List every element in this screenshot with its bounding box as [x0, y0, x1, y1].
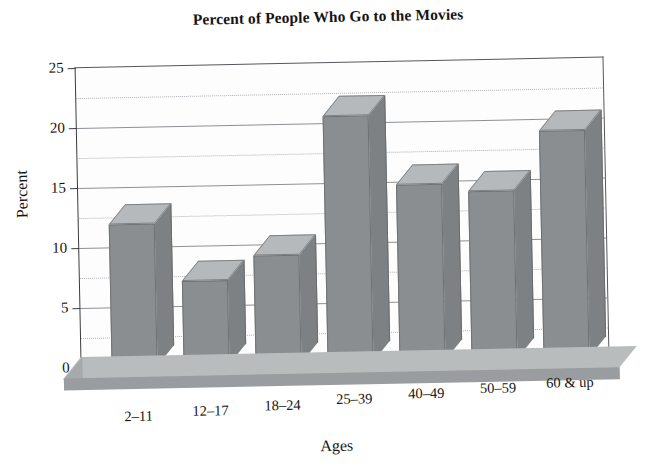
- y-axis-tick-label: 25: [48, 60, 63, 77]
- y-axis-tick-label: 20: [50, 120, 65, 137]
- bar-front-face: [539, 130, 590, 358]
- y-axis-tick: [69, 128, 77, 129]
- plot-area: 0510152025: [75, 57, 610, 368]
- bar-front-face: [468, 190, 517, 359]
- y-axis-tick: [70, 188, 78, 189]
- y-axis-tick-label: 5: [61, 299, 69, 316]
- bar-front-face: [396, 184, 446, 360]
- bar-front-face: [182, 280, 230, 365]
- bar-40-49: [396, 164, 446, 360]
- bar-front-face: [109, 224, 158, 367]
- chart-title: Percent of People Who Go to the Movies: [0, 1, 661, 32]
- bar-side-face: [155, 203, 174, 366]
- chart-figure: Percent of People Who Go to the Movies P…: [0, 0, 665, 470]
- y-axis: 0510152025: [76, 58, 603, 69]
- x-axis-tick-label: 60 & up: [546, 374, 594, 392]
- bar-side-face: [299, 234, 318, 363]
- bar-front-face: [323, 115, 374, 362]
- bar-50-59: [468, 170, 518, 359]
- x-axis-tick-label: 40–49: [408, 385, 445, 403]
- y-axis-tick-label: 15: [51, 180, 66, 197]
- x-axis-tick-label: 25–39: [336, 391, 373, 409]
- x-axis-tick-label: 2–11: [124, 408, 153, 426]
- x-axis-tick-label: 18–24: [264, 396, 301, 414]
- bar-side-face: [442, 164, 462, 360]
- x-axis-tick-label: 50–59: [480, 379, 517, 397]
- bar-12-17: [181, 260, 229, 365]
- floor-left-face: [63, 357, 82, 379]
- x-axis-tick-label: 12–17: [192, 402, 229, 420]
- bar-18-24: [253, 234, 302, 363]
- y-axis-tick: [72, 308, 80, 309]
- bar-side-face: [514, 169, 534, 358]
- bar-front-face: [253, 254, 301, 363]
- y-axis-tick: [71, 248, 79, 249]
- y-axis-tick-label: 10: [52, 239, 67, 256]
- y-axis-title: Percent: [13, 170, 32, 218]
- y-axis-tick: [68, 68, 76, 69]
- bar-2-11: [108, 204, 157, 367]
- bar-series: [76, 58, 603, 69]
- gridlines: [76, 58, 603, 69]
- bar-60-up: [539, 110, 590, 358]
- bar-25-39: [322, 95, 373, 362]
- x-axis-title: Ages: [4, 430, 665, 461]
